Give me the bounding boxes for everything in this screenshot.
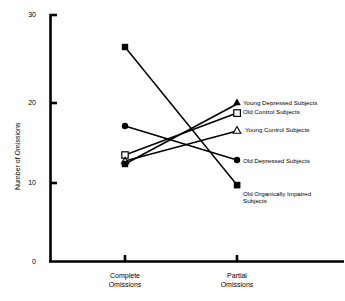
y-axis-title: Number of Omissions (14, 123, 21, 190)
y-tick-label-0: 0 (22, 258, 36, 265)
x-axis-label-complete-omissions: Complete Omissions (90, 272, 160, 289)
series-line-old-organically-impaired (125, 47, 237, 185)
marker-old-organically-impaired-partial (234, 182, 241, 189)
marker-old-organically-impaired-complete (122, 44, 128, 50)
legend-label-old-depressed-subjects: Old Depressed Subjects (243, 157, 343, 164)
marker-young-control-partial (233, 127, 241, 134)
y-tick-label-30: 30 (22, 11, 36, 18)
legend-label-young-control-subjects: Young Control Subjects (245, 126, 345, 133)
marker-old-depressed-partial (234, 157, 240, 163)
legend-label-old-control-subjects: Old Control Subjects (243, 108, 343, 115)
y-tick-label-10: 10 (22, 179, 36, 186)
y-tick-label-20: 20 (22, 99, 36, 106)
marker-young-depressed-complete (122, 161, 128, 167)
x-axis-label-partial-omissions: Partial Omissions (202, 272, 272, 289)
marker-young-depressed-partial (233, 99, 241, 106)
chart-plot-area (0, 0, 345, 301)
legend-label-old-organically-impaired-subjects: Old Organically Impaired Subjects (243, 190, 338, 205)
marker-old-control-partial (234, 110, 241, 117)
series-line-old-control (125, 113, 237, 155)
series-line-young-control (125, 131, 237, 161)
line-chart: 30 20 10 0 Number of Omissions Complete … (0, 0, 345, 301)
legend-label-young-depressed-subjects: Young Depressed Subjects (243, 99, 343, 106)
marker-old-depressed-complete (122, 123, 128, 129)
